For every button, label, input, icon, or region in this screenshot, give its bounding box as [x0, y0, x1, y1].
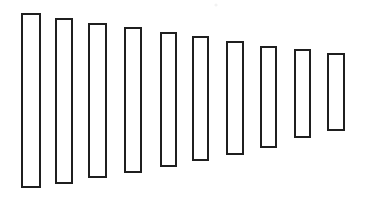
bar-9 [295, 50, 310, 137]
figure-canvas [0, 0, 372, 200]
bar-5 [161, 33, 176, 166]
bar-3 [89, 24, 106, 177]
bar-6 [193, 37, 208, 160]
bar-1 [22, 14, 40, 187]
bar-8 [261, 47, 276, 147]
faint-speck [214, 3, 217, 6]
bar-4 [125, 28, 141, 172]
bar-chart-svg [0, 0, 372, 200]
bar-7 [227, 42, 243, 154]
bar-10 [328, 54, 344, 130]
decorative-marks-group [214, 3, 217, 6]
bar-2 [56, 19, 72, 183]
